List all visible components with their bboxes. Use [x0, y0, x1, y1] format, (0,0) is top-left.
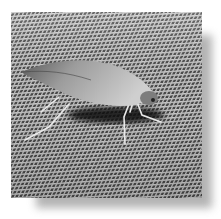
- insect-head: [140, 91, 158, 105]
- insect-eye: [151, 98, 155, 102]
- insect-photo: Insect on mesh screen: [11, 12, 202, 198]
- insect-shadow: [68, 107, 164, 123]
- photo-canvas: [11, 12, 202, 198]
